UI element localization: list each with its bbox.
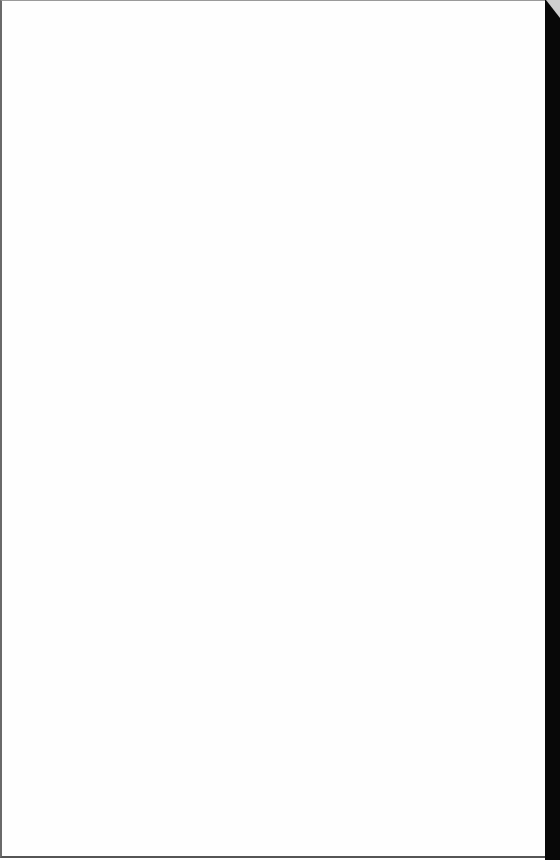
dark-edge <box>545 0 560 860</box>
page-corner <box>546 0 560 18</box>
blank-page <box>0 0 545 858</box>
